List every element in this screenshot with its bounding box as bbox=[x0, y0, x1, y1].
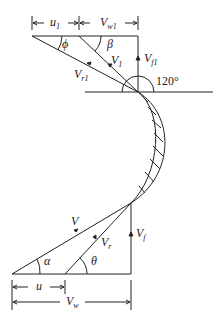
v-label: V bbox=[71, 214, 80, 228]
vf-label: Vf bbox=[136, 226, 147, 242]
vw1-label: Vw1 bbox=[100, 15, 117, 31]
beta-label: β bbox=[106, 37, 113, 51]
u1-label: u1 bbox=[50, 15, 60, 31]
vf1-label: Vf1 bbox=[144, 51, 158, 67]
inlet-triangle: V Vr Vf α θ u Vw bbox=[12, 203, 147, 310]
vr1-label: Vr1 bbox=[74, 67, 88, 83]
angle-120-label: 120° bbox=[156, 74, 179, 88]
theta-label: θ bbox=[91, 254, 97, 268]
phi-label: ϕ bbox=[62, 37, 68, 51]
vw-label: Vw bbox=[66, 294, 79, 310]
alpha-label: α bbox=[44, 254, 51, 268]
outlet-triangle: u1 Vw1 ϕ β V1 Vf1 Vr1 120° bbox=[32, 15, 213, 92]
vr-label: Vr bbox=[101, 235, 112, 251]
v1-label: V1 bbox=[111, 53, 122, 69]
velocity-triangle-diagram: u1 Vw1 ϕ β V1 Vf1 Vr1 120° bbox=[0, 0, 223, 324]
vane-blade bbox=[131, 92, 165, 203]
u-label: u bbox=[36, 279, 42, 293]
